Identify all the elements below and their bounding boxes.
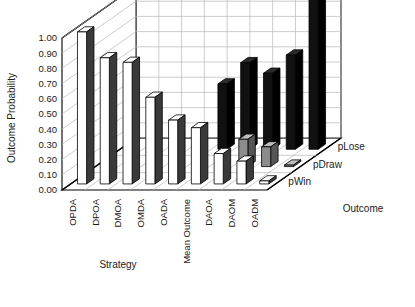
x-category-label: DAOM bbox=[226, 199, 237, 228]
x-category-label: Mean Outcome bbox=[181, 199, 192, 264]
bar-front-face bbox=[284, 165, 293, 167]
bar-front-face bbox=[237, 161, 246, 184]
bar-mean-outcome-pWin bbox=[191, 122, 208, 183]
bar-side-face bbox=[178, 115, 185, 184]
bar-side-face bbox=[246, 156, 253, 184]
bar-omda-pWin bbox=[146, 92, 163, 184]
bar-oada-pWin bbox=[169, 115, 186, 184]
bar-side-face bbox=[318, 0, 325, 149]
bar-front-face bbox=[262, 147, 271, 167]
bar-side-face bbox=[155, 92, 162, 184]
bar-daom-pLose bbox=[286, 50, 303, 149]
bar-front-face bbox=[260, 181, 269, 184]
bar-side-face bbox=[273, 68, 280, 149]
bar-dpoa-pWin bbox=[100, 53, 117, 184]
bar-front-face bbox=[286, 55, 295, 149]
bar-side-face bbox=[295, 50, 302, 149]
bar-dmoa-pWin bbox=[123, 57, 140, 184]
bar-side-face bbox=[87, 27, 94, 184]
x-axis-title: Strategy bbox=[99, 259, 136, 270]
y-tick-label: 0.50 bbox=[39, 108, 58, 119]
x-category-label: OMDA bbox=[135, 198, 146, 227]
y-tick-label: 0.30 bbox=[39, 139, 58, 150]
bar-daom-pDraw bbox=[262, 142, 279, 167]
bar-front-face bbox=[309, 0, 318, 149]
x-category-label: DPOA bbox=[90, 198, 101, 226]
bar-side-face bbox=[132, 57, 139, 184]
bar-side-face bbox=[223, 148, 230, 184]
bar-oadm-pLose bbox=[309, 0, 326, 149]
y-tick-label: 0.70 bbox=[39, 78, 58, 89]
x-category-label: OADM bbox=[249, 199, 260, 228]
bar-front-face bbox=[77, 32, 86, 184]
x-category-label: OPDA bbox=[67, 198, 78, 226]
bar-daoa-pWin bbox=[214, 148, 231, 184]
bar-oada-pLose bbox=[218, 79, 235, 150]
y-axis-title: Outcome Probability bbox=[6, 73, 17, 163]
x-category-label: DAOA bbox=[203, 198, 214, 226]
bar-side-face bbox=[109, 53, 116, 184]
bar-front-face bbox=[169, 120, 178, 184]
bar-daom-pWin bbox=[237, 156, 254, 184]
z-axis-title: Outcome bbox=[343, 203, 384, 214]
bar-front-face bbox=[146, 97, 155, 184]
bar-front-face bbox=[263, 73, 272, 149]
y-tick-label: 0.10 bbox=[39, 169, 58, 180]
y-tick-label: 1.00 bbox=[39, 32, 58, 43]
bar-front-face bbox=[191, 128, 200, 184]
y-tick-label: 0.60 bbox=[39, 93, 58, 104]
bar-front-face bbox=[218, 84, 227, 149]
y-tick-label: 0.80 bbox=[39, 63, 58, 74]
y-tick-label: 0.00 bbox=[39, 184, 58, 195]
x-category-label: OADA bbox=[158, 198, 169, 226]
bar-opda-pWin bbox=[77, 27, 94, 184]
bar-side-face bbox=[227, 79, 234, 150]
y-tick-label: 0.20 bbox=[39, 154, 58, 165]
z-series-label-pDraw: pDraw bbox=[313, 159, 343, 170]
y-tick-label: 0.40 bbox=[39, 124, 58, 135]
x-category-label: DMOA bbox=[112, 198, 123, 227]
bar-front-face bbox=[100, 58, 109, 184]
z-series-label-pLose: pLose bbox=[338, 141, 366, 152]
bar-chart-3d: 1.000.900.800.700.600.500.400.300.200.10… bbox=[0, 0, 415, 307]
z-series-label-pWin: pWin bbox=[288, 176, 311, 187]
bar-front-face bbox=[214, 154, 223, 184]
chart-container: 1.000.900.800.700.600.500.400.300.200.10… bbox=[0, 0, 415, 307]
y-tick-label: 0.90 bbox=[39, 48, 58, 59]
bar-daoa-pLose bbox=[263, 68, 280, 149]
bar-side-face bbox=[200, 122, 207, 183]
bar-front-face bbox=[123, 62, 132, 184]
